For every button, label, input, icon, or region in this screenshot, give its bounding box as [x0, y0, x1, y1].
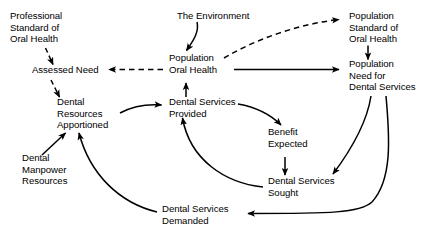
node-dental-resources-apportioned: Dental Resources Apportioned	[57, 96, 108, 131]
node-population-standard: Population Standard of Oral Health	[349, 10, 398, 45]
node-the-environment: The Environment	[177, 10, 249, 22]
node-population-need: Population Need for Dental Services	[349, 58, 415, 93]
node-dental-services-demanded: Dental Services Demanded	[162, 203, 228, 226]
causal-loop-diagram: Dental Resources Apportioned : short das…	[0, 0, 426, 245]
edge-dental-services-sought-to-dental-services-provided	[183, 118, 264, 187]
edge-professional-standard-to-assessed-need	[46, 48, 54, 65]
edge-dental-services-demanded-to-dental-resources	[79, 133, 157, 212]
edge-dental-services-provided-to-benefit-expected	[238, 104, 281, 125]
edge-the-environment-to-population-oral-health	[187, 22, 198, 51]
node-dental-services-sought: Dental Services Sought	[268, 175, 334, 198]
node-dental-services-provided: Dental Services Provided	[169, 96, 235, 119]
node-assessed-need: Assessed Need	[32, 64, 99, 76]
node-population-oral-health: Population Oral Health	[169, 52, 217, 75]
edge-assessed-need-to-dental-resources	[51, 80, 60, 97]
node-professional-standard: Professional Standard of Oral Health	[10, 10, 62, 45]
node-dental-manpower-resources: Dental Manpower Resources	[22, 152, 67, 187]
node-benefit-expected: Benefit Expected	[268, 126, 308, 149]
edge-population-oral-health-to-population-standard	[224, 20, 339, 59]
edge-population-need-to-dental-services-sought	[333, 96, 371, 174]
edge-dental-resources-to-dental-services-provided	[120, 105, 162, 113]
